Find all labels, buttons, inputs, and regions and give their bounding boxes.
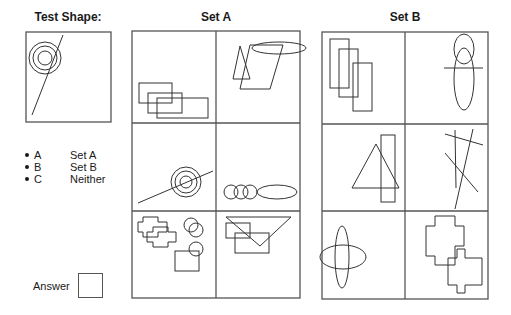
set-b-grid [320, 34, 483, 293]
polygon-shape [233, 46, 250, 79]
polygon-shape [352, 144, 399, 188]
rectangle-shape [175, 251, 199, 271]
figure-canvas [0, 0, 511, 315]
polygon-shape [448, 249, 482, 293]
set-a-cell-2 [233, 42, 306, 89]
set-a-cell-1 [139, 83, 208, 118]
circle-shape [189, 242, 203, 256]
ellipse-shape [454, 34, 474, 64]
circle-shape [38, 51, 52, 65]
set-a-cell-4 [224, 185, 297, 199]
set-b-cell-5 [320, 226, 366, 288]
set-a-grid [138, 42, 306, 271]
circle-shape [33, 46, 57, 70]
set-a-cell-5 [138, 217, 203, 271]
line-shape [445, 153, 478, 192]
set-b-cell-3 [352, 135, 399, 202]
ellipse-shape [335, 226, 349, 288]
test-shape-drawing [29, 35, 63, 115]
set-b-cell-1 [330, 39, 372, 111]
ellipse-shape [252, 42, 306, 54]
circle-shape [29, 42, 61, 74]
rectangle-shape [226, 223, 250, 238]
ellipse-shape [320, 245, 366, 269]
set-b-cell-2 [444, 34, 483, 110]
test-shape-box [26, 32, 111, 122]
line-shape [455, 130, 456, 188]
ellipse-shape [257, 185, 297, 199]
ellipse-shape [454, 48, 474, 110]
line-shape [32, 35, 63, 115]
set-a-cell-6 [226, 217, 291, 253]
set-b-cell-6 [426, 216, 482, 293]
line-shape [445, 134, 483, 145]
rectangle-shape [381, 135, 395, 202]
grid-frames [26, 31, 488, 299]
rectangle-shape [353, 63, 372, 111]
set-a-cell-3 [138, 167, 213, 203]
polygon-shape [226, 217, 291, 246]
polygon-shape [426, 216, 464, 265]
line-shape [138, 171, 213, 203]
line-shape [455, 129, 473, 209]
circle-shape [234, 185, 248, 199]
set-b-cell-4 [445, 129, 483, 209]
circle-shape [243, 185, 257, 199]
